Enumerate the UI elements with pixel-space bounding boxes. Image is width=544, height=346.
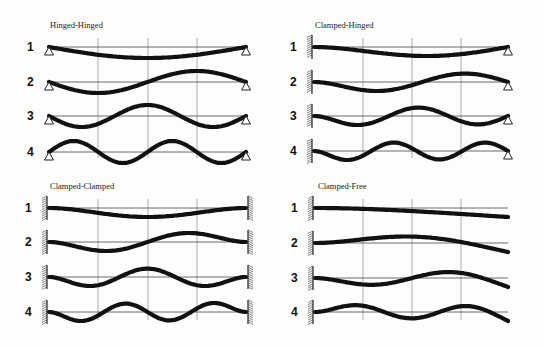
- mode-3: 3: [291, 266, 508, 291]
- mode-4: 4: [25, 300, 253, 325]
- panel-title: Clamped-Clamped: [50, 181, 115, 191]
- mode-1: 1: [291, 196, 508, 221]
- beam-mode-shape: [315, 305, 508, 321]
- clamped-support-icon: [307, 35, 312, 59]
- clamped-support-icon: [308, 231, 313, 256]
- panel-clamped-free: Clamped-Free1234: [291, 181, 508, 325]
- mode-2: 2: [290, 70, 513, 94]
- mode-number-label: 2: [290, 75, 297, 89]
- mode-number-label: 3: [290, 109, 297, 123]
- beam-mode-shape: [315, 237, 508, 253]
- clamped-support-icon: [307, 70, 312, 94]
- beam-mode-shape: [49, 47, 246, 58]
- mode-3: 3: [290, 104, 513, 128]
- panel-hinged-hinged: Hinged-Hinged1234: [27, 20, 251, 163]
- hinge-support-icon: [504, 151, 513, 159]
- clamped-support-icon: [248, 230, 253, 255]
- clamped-support-icon: [307, 104, 312, 128]
- mode-1: 1: [290, 35, 513, 59]
- mode-number-label: 4: [291, 305, 298, 319]
- beam-mode-shapes-diagram: Hinged-Hinged1234Clamped-Hinged1234Clamp…: [0, 0, 544, 346]
- clamped-support-icon: [42, 300, 47, 325]
- mode-number-label: 2: [25, 235, 32, 249]
- mode-3: 3: [27, 105, 251, 127]
- clamped-support-icon: [308, 196, 313, 221]
- mode-number-label: 1: [290, 40, 297, 54]
- mode-4: 4: [291, 300, 508, 325]
- panel-clamped-hinged: Clamped-Hinged1234: [290, 20, 513, 164]
- clamped-support-icon: [42, 196, 47, 221]
- mode-number-label: 3: [27, 109, 34, 123]
- clamped-support-icon: [248, 196, 253, 221]
- mode-number-label: 4: [27, 145, 34, 159]
- mode-2: 2: [25, 230, 253, 255]
- panel-title: Clamped-Free: [318, 181, 367, 191]
- beam-mode-shape: [314, 47, 508, 56]
- beam-mode-shape: [49, 208, 246, 217]
- panel-clamped-clamped: Clamped-Clamped1234: [25, 181, 253, 325]
- clamped-support-icon: [248, 300, 253, 325]
- hinge-support-icon: [242, 82, 251, 90]
- panel-title: Hinged-Hinged: [50, 20, 104, 30]
- mode-number-label: 2: [27, 75, 34, 89]
- mode-number-label: 1: [27, 40, 34, 54]
- clamped-support-icon: [42, 265, 47, 290]
- beam-mode-shape: [315, 272, 508, 287]
- mode-number-label: 3: [291, 271, 298, 285]
- mode-number-label: 2: [291, 236, 298, 250]
- mode-1: 1: [25, 196, 253, 221]
- mode-2: 2: [291, 231, 508, 256]
- mode-number-label: 4: [290, 144, 297, 158]
- hinge-support-icon: [45, 152, 54, 160]
- mode-number-label: 1: [25, 201, 32, 215]
- mode-2: 2: [27, 71, 251, 93]
- panel-title: Clamped-Hinged: [315, 20, 374, 30]
- clamped-support-icon: [308, 266, 313, 291]
- mode-4: 4: [27, 141, 251, 163]
- mode-4: 4: [290, 139, 513, 164]
- clamped-support-icon: [248, 265, 253, 290]
- mode-number-label: 3: [25, 270, 32, 284]
- clamped-support-icon: [42, 230, 47, 255]
- mode-number-label: 1: [291, 201, 298, 215]
- clamped-support-icon: [307, 139, 312, 164]
- mode-number-label: 4: [25, 305, 32, 319]
- mode-3: 3: [25, 265, 253, 290]
- beam-mode-shape: [315, 208, 508, 217]
- clamped-support-icon: [308, 300, 313, 325]
- mode-1: 1: [27, 40, 251, 58]
